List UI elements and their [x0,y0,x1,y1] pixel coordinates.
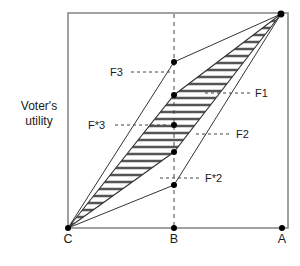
callout-label-F1: F1 [255,87,268,100]
point-F2 [171,149,177,155]
point-A [279,225,285,231]
point-apex [278,11,285,18]
axis-label-C: C [58,232,78,247]
point-Fstar2 [171,182,177,188]
callout-label-F2: F2 [236,128,249,141]
axis-label-B: B [164,232,184,247]
point-Fstar3 [171,122,177,128]
callout-label-Fstar2: F*2 [205,172,222,185]
axis-label-A: A [272,232,292,247]
point-C [65,225,71,231]
point-F3 [171,59,177,65]
voters-utility-figure: Voter's utility C B A F3 F1 F*3 F2 F*2 [0,0,300,266]
y-axis-label: Voter's utility [10,99,68,129]
callout-label-Fstar3: F*3 [88,119,105,132]
diagram-canvas [0,0,300,266]
point-F1 [171,92,177,98]
point-B [171,225,177,231]
callout-label-F3: F3 [110,66,123,79]
